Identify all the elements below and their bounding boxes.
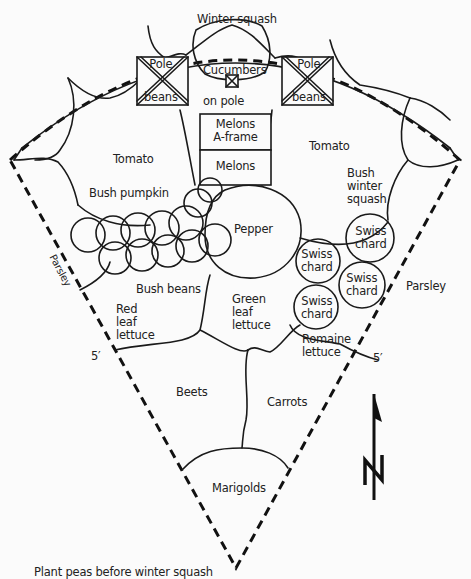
label-swiss-chard-2: Swisschard	[355, 225, 386, 251]
label-cucumbers: Cucumbers	[203, 64, 266, 77]
label-melons: Melons	[200, 160, 271, 173]
label-bush-winter-squash: Bush winter squash	[347, 167, 387, 206]
label-tomato-left: Tomato	[113, 153, 154, 166]
label-swiss-chard-3: Swisschard	[346, 272, 377, 298]
label-winter-squash: Winter squash	[197, 13, 277, 26]
label-swiss-chard-4: Swisschard	[301, 295, 332, 321]
label-romaine-lettuce: Romaine lettuce	[302, 333, 351, 359]
label-red-leaf-lettuce: Red leaf lettuce	[116, 303, 155, 342]
north-arrow-icon	[362, 390, 392, 500]
planting-note: Plant peas before winter squash	[34, 566, 213, 579]
label-melons-aframe: Melons A-frame	[200, 118, 271, 144]
dimension-right: 5′	[373, 352, 383, 365]
label-marigolds: Marigolds	[212, 482, 266, 495]
label-tomato-right: Tomato	[309, 140, 350, 153]
label-bush-pumpkin: Bush pumpkin	[89, 187, 169, 200]
label-carrots: Carrots	[267, 396, 307, 409]
label-green-leaf-lettuce: Green leaf lettuce	[232, 293, 271, 332]
label-pole-beans-left: Pole beans	[144, 58, 178, 104]
label-swiss-chard-1: Swisschard	[301, 248, 332, 274]
label-pole-beans-right: Pole beans	[292, 58, 326, 104]
label-bush-beans: Bush beans	[136, 283, 201, 296]
label-cucumbers-on-pole: on pole	[203, 95, 244, 108]
label-parsley-right: Parsley	[406, 280, 446, 293]
label-pepper: Pepper	[234, 223, 273, 236]
label-beets: Beets	[176, 386, 208, 399]
dimension-left: 5′	[91, 350, 101, 363]
